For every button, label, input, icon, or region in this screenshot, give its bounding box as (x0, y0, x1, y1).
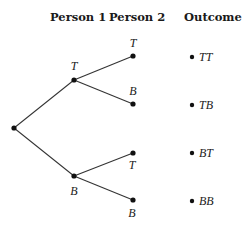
edge-B-to-BT (74, 153, 133, 176)
outcome-BB: BB (199, 194, 214, 208)
label-person1-T: T (71, 59, 79, 73)
person1-node-B (71, 173, 76, 178)
label-person2-T-upper: T (130, 36, 138, 50)
label-person2-T-lower: T (129, 158, 137, 172)
outcome-bullet-BB (190, 199, 194, 203)
edge-root-to-B (14, 128, 74, 176)
outcome-BT: BT (199, 146, 214, 160)
header-outcome: Outcome (184, 10, 242, 24)
person2-node-B-lower (130, 197, 135, 202)
header-person-2: Person 2 (109, 10, 165, 24)
outcome-TT: TT (199, 50, 214, 64)
header-person-1: Person 1 (50, 10, 106, 24)
label-person2-B-lower: B (128, 206, 136, 220)
outcome-bullet-BT (190, 151, 194, 155)
label-person2-B-upper: B (129, 84, 137, 98)
person2-node-T-lower (130, 150, 135, 155)
outcome-bullet-TB (190, 103, 194, 107)
label-person1-B: B (70, 184, 78, 198)
outcome-TB: TB (199, 98, 214, 112)
edge-root-to-T (14, 80, 74, 128)
edge-T-to-TB (74, 80, 133, 104)
person2-node-B-upper (130, 101, 135, 106)
person1-node-T (71, 77, 76, 82)
root-node (11, 125, 16, 130)
edge-T-to-TT (74, 56, 133, 80)
person2-node-T-upper (130, 53, 135, 58)
tree-diagram: Person 1 Person 2 Outcome T B T B T B TT… (0, 0, 245, 228)
edge-B-to-BB (74, 176, 133, 200)
outcome-bullet-TT (190, 55, 194, 59)
